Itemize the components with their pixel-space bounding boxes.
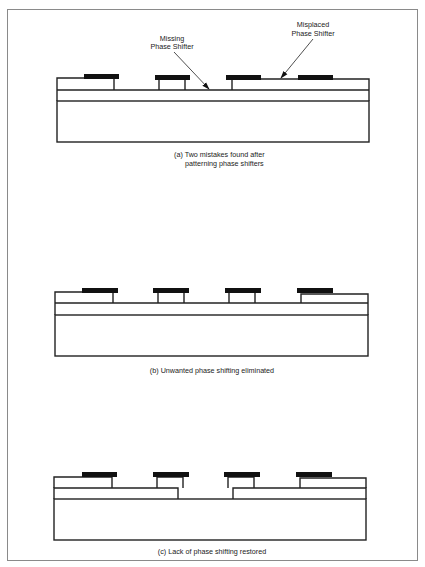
substrate bbox=[57, 101, 369, 142]
middle-layer-left-block bbox=[54, 488, 178, 499]
middle-layer-right-block bbox=[233, 488, 366, 499]
top-layer-block-1 bbox=[57, 78, 114, 90]
top-layer-block-2 bbox=[157, 477, 183, 488]
chrome-pattern bbox=[153, 472, 189, 477]
chrome-pattern bbox=[298, 75, 333, 80]
chrome-pattern bbox=[224, 472, 260, 477]
top-layer-block-4 bbox=[301, 294, 368, 303]
caption-b: (b) Unwanted phase shifting eliminated bbox=[150, 366, 274, 375]
chrome-pattern bbox=[84, 74, 119, 79]
annotation-misplaced-line2: Phase Shifter bbox=[291, 29, 335, 38]
caption-a-line2: patterning phase shifters bbox=[185, 159, 264, 168]
chrome-pattern bbox=[225, 288, 261, 293]
top-layer-block-1 bbox=[55, 292, 113, 303]
chrome-pattern bbox=[82, 472, 117, 477]
top-layer-block-3 bbox=[228, 477, 254, 488]
panel-c: (c) Lack of phase shifting restored bbox=[54, 472, 366, 556]
chrome-pattern bbox=[153, 288, 189, 293]
chrome-pattern bbox=[296, 472, 332, 477]
top-layer-block-4 bbox=[300, 478, 366, 488]
chrome-pattern bbox=[155, 75, 190, 80]
chrome-pattern bbox=[297, 288, 333, 293]
panel-a: Missing Phase Shifter Misplaced Phase Sh… bbox=[57, 20, 369, 168]
caption-a-line1: (a) Two mistakes found after bbox=[174, 150, 265, 159]
top-layer-block-2 bbox=[159, 79, 185, 90]
panel-b: (b) Unwanted phase shifting eliminated bbox=[55, 288, 368, 375]
caption-c: (c) Lack of phase shifting restored bbox=[158, 547, 266, 556]
phase-shifter-diagram: Missing Phase Shifter Misplaced Phase Sh… bbox=[0, 0, 425, 567]
substrate bbox=[54, 499, 366, 540]
top-layer-block-1 bbox=[54, 477, 112, 488]
top-layer-block-2 bbox=[158, 292, 184, 303]
chrome-pattern bbox=[82, 288, 118, 293]
annotation-missing-line2: Phase Shifter bbox=[150, 42, 194, 51]
substrate bbox=[55, 315, 368, 356]
annotation-misplaced-line1: Misplaced bbox=[297, 20, 329, 29]
top-layer-block-3 bbox=[232, 79, 369, 90]
arrow-missing-icon bbox=[174, 52, 209, 89]
arrow-misplaced-icon bbox=[281, 39, 313, 78]
chrome-pattern bbox=[226, 75, 261, 80]
top-layer-block-3 bbox=[229, 292, 255, 303]
